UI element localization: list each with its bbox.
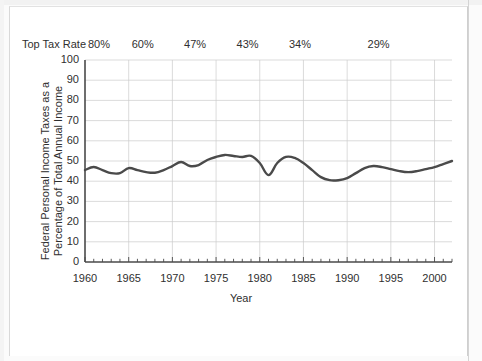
x-tick-label: 2000 — [415, 272, 455, 284]
horizontal-gridlines — [85, 60, 452, 242]
x-tick-label: 1980 — [240, 272, 280, 284]
chart-page: Top Tax Rate 80%60%47%43%34%29% 01020304… — [0, 0, 482, 361]
y-axis-title: Federal Personal Income Taxes as a Perce… — [39, 71, 65, 271]
x-tick-label: 1975 — [196, 272, 236, 284]
x-axis-title: Year — [0, 292, 482, 304]
data-series-line — [85, 155, 452, 181]
y-axis-title-line-1: Federal Personal Income Taxes as a — [39, 71, 52, 271]
x-tick-label: 1985 — [283, 272, 323, 284]
x-tick-label: 1965 — [109, 272, 149, 284]
y-axis-title-line-2: Percentage of Total Annual Income — [52, 71, 65, 271]
x-tick-label: 1990 — [327, 272, 367, 284]
y-tick-label: 100 — [53, 53, 79, 65]
x-tick-label: 1995 — [371, 272, 411, 284]
x-tick-label: 1970 — [152, 272, 192, 284]
x-tick-label: 1960 — [65, 272, 105, 284]
